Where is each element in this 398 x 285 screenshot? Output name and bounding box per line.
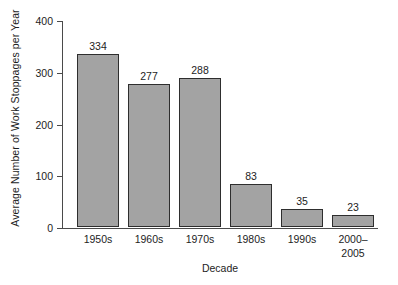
bar-1950s: 334 — [77, 54, 119, 227]
bar-1990s: 35 — [281, 209, 323, 227]
x-tick-label: 1970s — [186, 233, 215, 247]
y-tick-label: 100 — [35, 170, 53, 182]
plot-area: 01002003004003341950s2771960s2881970s831… — [62, 21, 378, 228]
x-tick-label: 2000– 2005 — [338, 233, 367, 260]
bar-value-label: 277 — [140, 70, 158, 82]
y-tick-label: 0 — [47, 222, 53, 234]
x-axis-title: Decade — [62, 262, 378, 274]
bar-value-label: 288 — [191, 64, 209, 76]
x-tick-label: 1990s — [288, 233, 317, 247]
y-tick-mark — [57, 73, 62, 74]
bar-2000--2005: 23 — [332, 215, 374, 227]
y-axis-line — [62, 21, 63, 229]
y-tick-mark — [57, 125, 62, 126]
x-tick-label: 1960s — [135, 233, 164, 247]
y-tick-label: 400 — [35, 15, 53, 27]
y-axis-title: Average Number of Work Stoppages per Yea… — [6, 4, 24, 232]
bar-1970s: 288 — [179, 78, 221, 227]
bar-value-label: 23 — [347, 201, 359, 213]
y-tick-label: 200 — [35, 119, 53, 131]
y-tick-mark — [57, 228, 62, 229]
bar-value-label: 83 — [245, 170, 257, 182]
bar-1980s: 83 — [230, 184, 272, 227]
bar-chart-figure: Average Number of Work Stoppages per Yea… — [0, 0, 398, 285]
x-tick-label: 1950s — [84, 233, 113, 247]
bar-value-label: 334 — [89, 40, 107, 52]
x-tick-label: 1980s — [237, 233, 266, 247]
y-tick-mark — [57, 176, 62, 177]
x-axis-line — [62, 228, 378, 229]
bar-value-label: 35 — [296, 195, 308, 207]
bar-1960s: 277 — [128, 84, 170, 227]
y-tick-label: 300 — [35, 67, 53, 79]
y-tick-mark — [57, 21, 62, 22]
